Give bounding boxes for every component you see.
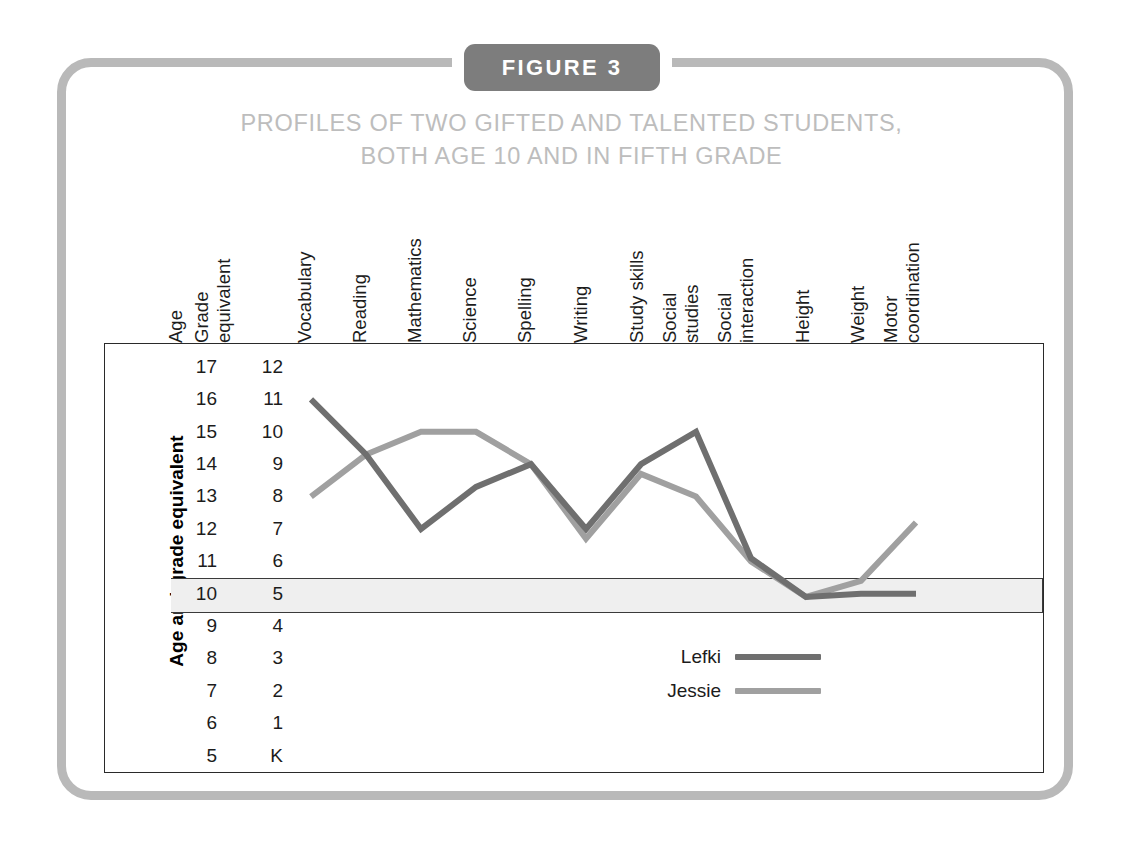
- plot-area: Age and grade equivalent 17 12 16 11 15 …: [104, 343, 1044, 773]
- grade-tick: 1: [217, 712, 283, 734]
- figure-tab-label: FIGURE 3: [464, 44, 660, 91]
- grade-tick-highlighted: 5: [217, 583, 283, 605]
- column-header-study-skills: Study skills: [626, 250, 647, 343]
- grade-tick: 2: [217, 680, 283, 702]
- column-header-mathematics: Mathematics: [404, 238, 425, 343]
- grade-tick: 9: [217, 453, 283, 475]
- age-tick: 15: [105, 421, 217, 443]
- column-header-social-studies: Socialstudies: [659, 284, 702, 343]
- age-tick: 14: [105, 453, 217, 475]
- age-tick: 12: [105, 518, 217, 540]
- scale-row: 8 3: [105, 642, 305, 674]
- column-header-weight: Weight: [847, 286, 868, 343]
- legend: Lefki Jessie: [625, 640, 905, 708]
- column-header-social-interaction-line1: Social: [714, 293, 735, 343]
- column-header-grade-equivalent: Gradeequivalent: [191, 259, 234, 343]
- scale-row: 12 7: [105, 513, 305, 545]
- column-header-height: Height: [792, 290, 813, 343]
- scale-row: 16 11: [105, 383, 305, 415]
- column-header-social-studies-line1: Social: [659, 293, 680, 343]
- age-tick: 17: [105, 356, 217, 378]
- chart-title: PROFILES OF TWO GIFTED AND TALENTED STUD…: [0, 107, 1143, 173]
- column-header-vocabulary: Vocabulary: [294, 251, 315, 343]
- column-header-science: Science: [459, 277, 480, 343]
- legend-label-lefki: Lefki: [625, 646, 735, 668]
- column-header-grade-line1: Grade: [191, 292, 212, 343]
- scale-row: 13 8: [105, 480, 305, 512]
- column-header-age: Age: [165, 310, 186, 343]
- column-header-reading: Reading: [349, 274, 370, 343]
- grade-tick: 12: [217, 356, 283, 378]
- column-headers: Age Gradeequivalent Vocabulary Reading M…: [0, 160, 1143, 343]
- legend-item-lefki: Lefki: [625, 640, 905, 674]
- series-line-jessie: [311, 432, 916, 597]
- legend-item-jessie: Jessie: [625, 674, 905, 708]
- age-tick: 8: [105, 647, 217, 669]
- grade-tick: 8: [217, 485, 283, 507]
- age-tick: 16: [105, 388, 217, 410]
- age-tick: 5: [105, 745, 217, 767]
- chart-title-line-2: BOTH AGE 10 AND IN FIFTH GRADE: [0, 140, 1143, 173]
- scale-row: 15 10: [105, 415, 305, 447]
- scale-row-highlighted: 10 5: [105, 577, 305, 609]
- grade-tick: K: [217, 745, 283, 767]
- column-header-social-interaction: Socialinteraction: [714, 258, 757, 343]
- column-header-motor-line2: coordination: [902, 242, 923, 343]
- scale-row: 5 K: [105, 739, 305, 771]
- column-header-writing: Writing: [570, 286, 591, 343]
- age-tick: 6: [105, 712, 217, 734]
- age-tick: 11: [105, 550, 217, 572]
- grade-tick: 10: [217, 421, 283, 443]
- column-header-social-interaction-line2: interaction: [736, 258, 757, 343]
- chart-title-line-1: PROFILES OF TWO GIFTED AND TALENTED STUD…: [0, 107, 1143, 140]
- grade-tick: 7: [217, 518, 283, 540]
- column-header-social-studies-line2: studies: [681, 284, 702, 343]
- column-header-spelling: Spelling: [514, 277, 535, 343]
- scale-row: 11 6: [105, 545, 305, 577]
- legend-swatch-jessie: [735, 688, 821, 694]
- column-header-motor-coordination: Motorcoordination: [880, 242, 923, 343]
- scale-row: 7 2: [105, 675, 305, 707]
- column-header-grade-line2: equivalent: [213, 259, 234, 343]
- age-tick-highlighted: 10: [105, 583, 217, 605]
- legend-swatch-lefki: [735, 654, 821, 660]
- column-header-motor-line1: Motor: [880, 296, 901, 343]
- series-line-lefki: [311, 399, 916, 597]
- scale-row: 17 12: [105, 351, 305, 383]
- scale-row: 6 1: [105, 707, 305, 739]
- grade-tick: 6: [217, 550, 283, 572]
- age-tick: 9: [105, 615, 217, 637]
- legend-label-jessie: Jessie: [625, 680, 735, 702]
- grade-tick: 11: [217, 388, 283, 410]
- grade-tick: 3: [217, 647, 283, 669]
- scale-row: 14 9: [105, 448, 305, 480]
- age-tick: 7: [105, 680, 217, 702]
- age-tick: 13: [105, 485, 217, 507]
- scale-row: 9 4: [105, 610, 305, 642]
- grade-tick: 4: [217, 615, 283, 637]
